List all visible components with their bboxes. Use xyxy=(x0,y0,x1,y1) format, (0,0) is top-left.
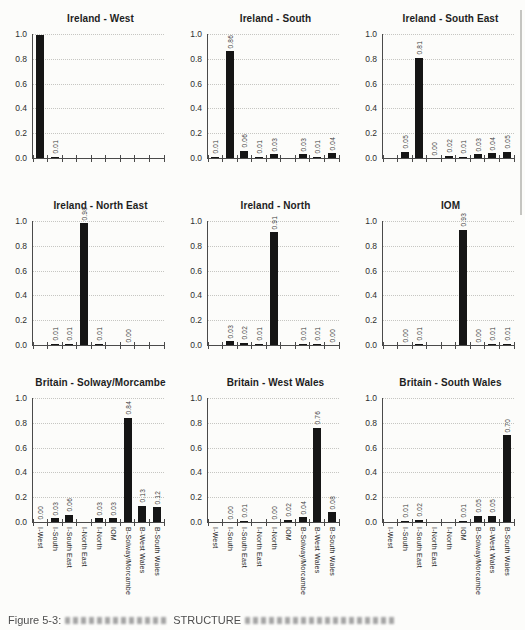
bar-chart: Britain - Solway/Morcambe 1.00.80.60.40.… xyxy=(0,372,175,630)
bar-value-label: 0.01 xyxy=(255,327,262,340)
bar-chart: Ireland - North 1.00.80.60.40.20.0 0.030… xyxy=(175,195,350,372)
bar-slots: 0.000.030.060.030.030.840.130.12 xyxy=(33,398,164,522)
x-category-label: B-South Wales xyxy=(328,527,336,576)
x-label-cell: B-Solway/Morcambe xyxy=(120,523,135,605)
bar-slot: 0.05 xyxy=(470,398,485,522)
bar xyxy=(80,223,88,345)
x-axis-tick xyxy=(91,155,92,162)
bar xyxy=(445,156,453,158)
x-label-cell: I-South East xyxy=(237,523,252,605)
bar-slot: 0.00 xyxy=(325,221,340,345)
x-category-label: I-South East xyxy=(415,527,423,568)
bar xyxy=(488,153,496,158)
bar-value-label: 0.13 xyxy=(139,489,146,502)
bar-value-label: 0.00 xyxy=(474,329,481,342)
x-axis-tick xyxy=(484,342,485,349)
x-category-label: I-North East xyxy=(255,527,263,567)
bar-value-label: 0.00 xyxy=(430,142,437,155)
bar-slot xyxy=(77,34,92,158)
x-axis-labels: I-WestI-SouthI-South EastI-North EastI-N… xyxy=(383,523,514,605)
bar-slot: 0.76 xyxy=(310,398,325,522)
y-tick-label: 0.8 xyxy=(365,54,377,63)
bar xyxy=(36,35,44,158)
y-tick-label: 0.4 xyxy=(15,291,27,300)
x-axis-tick xyxy=(62,342,63,349)
y-tick-label: 0.0 xyxy=(190,518,202,527)
chart-title: Ireland - North East xyxy=(6,199,169,212)
bar-slot: 0.98 xyxy=(77,221,92,345)
plot-row: 1.00.80.60.40.20.0 0.010.010.980.010.00 xyxy=(6,221,169,346)
x-axis-tick xyxy=(324,519,325,526)
bar xyxy=(503,152,511,158)
bar-slots: 0.000.010.000.020.040.760.08 xyxy=(208,398,339,522)
y-tick-label: 0.6 xyxy=(190,79,202,88)
x-axis-tick xyxy=(295,342,296,349)
x-axis-tick xyxy=(280,342,281,349)
y-tick-label: 1.0 xyxy=(15,30,27,39)
bar-value-label: 0.01 xyxy=(66,327,73,340)
y-tick-label: 0.4 xyxy=(365,468,377,477)
bar-slot xyxy=(208,398,223,522)
bar-slot: 0.00 xyxy=(120,221,135,345)
illegible-text-smudge xyxy=(65,617,169,624)
bar-value-label: 0.05 xyxy=(503,135,510,148)
x-axis-tick xyxy=(324,155,325,162)
bar xyxy=(240,343,248,345)
x-label-cell: B-South Wales xyxy=(325,523,340,605)
x-axis-labels: I-WestI-SouthI-South EastI-North EastI-N… xyxy=(208,523,339,605)
y-axis-labels: 1.00.80.60.40.20.0 xyxy=(181,398,207,522)
bar-slot: 0.01 xyxy=(412,221,427,345)
x-axis-tick xyxy=(383,342,384,349)
x-axis-tick xyxy=(499,342,500,349)
bar-value-label: 0.01 xyxy=(401,504,408,517)
bar-slot xyxy=(135,221,150,345)
x-category-label: B-Solway/Morcambe xyxy=(299,527,307,595)
x-axis-tick xyxy=(33,342,34,349)
y-tick-label: 0.2 xyxy=(190,129,202,138)
plot-area: 0.050.810.000.020.010.030.040.05 xyxy=(382,34,514,159)
x-axis-tick xyxy=(455,519,456,526)
bar-slot: 0.00 xyxy=(33,398,48,522)
x-category-label: IOM xyxy=(109,527,117,541)
y-tick-label: 0.4 xyxy=(365,291,377,300)
x-axis-tick xyxy=(149,155,150,162)
x-axis-tick xyxy=(134,519,135,526)
bar-slot: 0.01 xyxy=(252,221,267,345)
bar-slots: 0.050.810.000.020.010.030.040.05 xyxy=(383,34,514,158)
x-label-cell: B-South Wales xyxy=(150,523,165,605)
x-axis-tick xyxy=(164,155,165,162)
charts-grid: Ireland - West 1.00.80.60.40.20.0 0.01 I… xyxy=(0,8,525,630)
bar-value-label: 0.08 xyxy=(328,496,335,509)
x-axis-tick xyxy=(47,519,48,526)
bar-value-label: 0.01 xyxy=(503,327,510,340)
x-label-cell: B-West Wales xyxy=(485,523,500,605)
x-axis-tick xyxy=(484,155,485,162)
bar-value-label: 0.12 xyxy=(153,491,160,504)
bar xyxy=(401,152,409,158)
plot-row: 1.00.80.60.40.20.0 0.000.010.000.020.040… xyxy=(181,398,344,523)
y-tick-label: 0.6 xyxy=(365,266,377,275)
plot-area: 0.000.010.930.000.010.01 xyxy=(382,221,514,346)
y-tick-label: 0.2 xyxy=(190,316,202,325)
x-axis-labels: I-WestI-SouthI-South EastI-North EastI-N… xyxy=(33,523,164,605)
chart-title: Britain - West Wales xyxy=(181,376,344,389)
x-axis-tick xyxy=(514,342,515,349)
x-axis-tick xyxy=(208,155,209,162)
x-label-cell: I-North xyxy=(91,523,106,605)
x-label-cell: B-Solway/Morcambe xyxy=(470,523,485,605)
bar xyxy=(401,521,409,522)
x-category-label: I-North East xyxy=(430,527,438,567)
bar xyxy=(255,344,263,345)
plot-row: 1.00.80.60.40.20.0 0.000.010.930.000.010… xyxy=(356,221,519,346)
bar-slot: 0.02 xyxy=(237,221,252,345)
bar xyxy=(474,154,482,158)
bar-slot: 0.03 xyxy=(223,221,238,345)
bar-value-label: 0.91 xyxy=(270,216,277,229)
x-axis-tick xyxy=(47,342,48,349)
bar-value-label: 0.05 xyxy=(489,499,496,512)
x-axis-tick xyxy=(412,155,413,162)
x-axis-tick xyxy=(441,342,442,349)
x-axis-tick xyxy=(134,342,135,349)
bar-value-label: 0.06 xyxy=(241,134,248,147)
bar-slot: 0.01 xyxy=(398,398,413,522)
